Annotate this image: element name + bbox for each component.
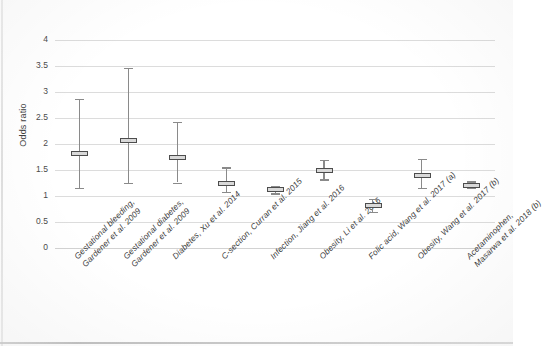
error-bar-cap-upper bbox=[418, 159, 427, 160]
error-bar-cap-upper bbox=[320, 160, 329, 161]
error-bar-cap-lower bbox=[369, 212, 378, 213]
gridline-1.5 bbox=[55, 170, 495, 171]
error-bar-cap-upper bbox=[75, 99, 84, 100]
point-estimate-marker bbox=[463, 183, 480, 188]
error-bar-cap-lower bbox=[124, 183, 133, 184]
point-estimate-marker bbox=[267, 187, 284, 192]
error-bar-cap-lower bbox=[467, 188, 476, 189]
error-bar-cap-lower bbox=[320, 179, 329, 180]
y-axis-tick-label: 4 bbox=[22, 35, 48, 44]
error-bar-cap-upper bbox=[173, 122, 182, 123]
error-bar-cap-lower bbox=[271, 193, 280, 194]
x-axis-category-label-line: Masarwa et al. 2018 (b) bbox=[471, 197, 542, 268]
page-edge-bottom bbox=[0, 342, 513, 344]
y-axis-tick-label: 0 bbox=[22, 243, 48, 252]
error-bar-cap-lower bbox=[222, 192, 231, 193]
error-bar-line bbox=[128, 68, 129, 183]
y-axis-tick-label: 0.5 bbox=[22, 217, 48, 226]
y-axis-tick-label: 1 bbox=[22, 191, 48, 200]
point-estimate-marker bbox=[414, 173, 431, 178]
gridline-4 bbox=[55, 40, 495, 41]
point-estimate-marker bbox=[169, 155, 186, 160]
y-axis-title: Odds ratio bbox=[18, 80, 28, 170]
gridline-3 bbox=[55, 92, 495, 93]
error-bar-line bbox=[177, 122, 178, 182]
gridline-3.5 bbox=[55, 66, 495, 67]
point-estimate-marker bbox=[316, 168, 333, 173]
point-estimate-marker bbox=[120, 138, 137, 143]
error-bar-cap-upper bbox=[124, 68, 133, 69]
gridline-2 bbox=[55, 144, 495, 145]
error-bar-cap-lower bbox=[173, 183, 182, 184]
error-bar-cap-lower bbox=[418, 188, 427, 189]
point-estimate-marker bbox=[218, 181, 235, 186]
error-bar-cap-lower bbox=[75, 188, 84, 189]
error-bar-line bbox=[79, 99, 80, 188]
error-bar-cap-upper bbox=[369, 199, 378, 200]
point-estimate-marker bbox=[71, 151, 88, 156]
y-axis-tick-label: 3.5 bbox=[22, 61, 48, 70]
gridline-2.5 bbox=[55, 118, 495, 119]
error-bar-cap-upper bbox=[222, 167, 231, 168]
point-estimate-marker bbox=[365, 203, 382, 208]
